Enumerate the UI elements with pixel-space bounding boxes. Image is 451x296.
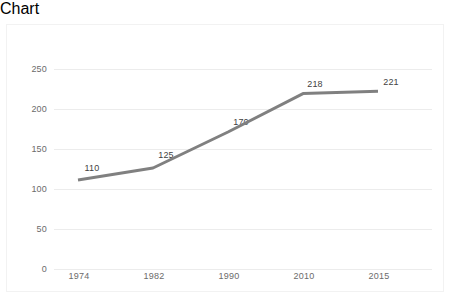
gridline-200 [54, 109, 432, 110]
gridline-100 [54, 189, 432, 190]
x-tick-label-2010: 2010 [294, 271, 315, 281]
x-tick-label-1990: 1990 [219, 271, 240, 281]
data-label-2010: 218 [307, 79, 323, 89]
data-label-2015: 221 [383, 77, 399, 87]
chart-frame: 250 200 150 100 50 0 1974 1982 1990 2010… [6, 24, 444, 292]
y-tick-label: 0 [42, 264, 47, 274]
gridline-250 [54, 69, 432, 70]
y-tick-label: 200 [31, 104, 47, 114]
gridline-50 [54, 229, 432, 230]
y-tick-label: 250 [31, 64, 47, 74]
gridline-0 [54, 269, 432, 270]
line-chart: 250 200 150 100 50 0 1974 1982 1990 2010… [0, 18, 451, 296]
data-label-1982: 125 [158, 150, 174, 160]
x-tick-label-2015: 2015 [369, 271, 390, 281]
x-tick-label-1974: 1974 [69, 271, 90, 281]
y-tick-label: 150 [31, 144, 47, 154]
data-label-1974: 110 [85, 163, 100, 173]
y-tick-label: 100 [31, 184, 47, 194]
plot-area [54, 69, 432, 269]
x-tick-label-1982: 1982 [144, 271, 165, 281]
y-tick-label: 50 [37, 224, 47, 234]
gridline-150 [54, 149, 432, 150]
data-label-1990: 170 [233, 117, 249, 127]
